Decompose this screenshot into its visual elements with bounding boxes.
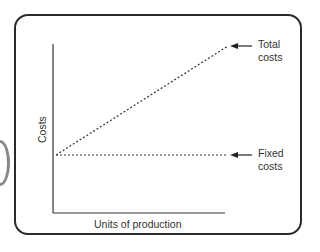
- total-costs-label-line2: costs: [258, 51, 283, 64]
- fixed-costs-label: Fixed costs: [258, 147, 284, 173]
- total-costs-line: [56, 46, 228, 155]
- total-costs-label: Total costs: [258, 38, 283, 64]
- fixed-costs-label-line1: Fixed: [258, 147, 284, 160]
- fixed-costs-label-line2: costs: [258, 160, 284, 173]
- total-costs-arrow-icon: [230, 43, 252, 49]
- x-axis-label: Units of production: [94, 218, 182, 231]
- total-costs-label-line1: Total: [258, 38, 283, 51]
- y-axis-label: Costs: [36, 116, 48, 143]
- fixed-costs-arrow-icon: [230, 152, 252, 158]
